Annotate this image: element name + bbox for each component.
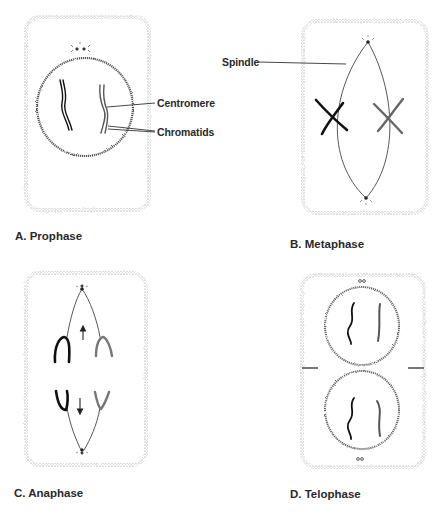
chromatin-light	[377, 304, 380, 436]
chromosome-light	[100, 85, 108, 133]
cell-membrane	[26, 17, 149, 210]
cell-membrane	[26, 273, 146, 465]
nucleus-bottom	[325, 371, 399, 449]
arrow-up-icon	[81, 326, 86, 340]
panel-metaphase	[258, 21, 427, 213]
caption-prophase: A. Prophase	[15, 230, 82, 242]
arrow-down-icon	[78, 398, 83, 414]
spindle	[67, 289, 100, 450]
chromosome-light	[95, 337, 112, 409]
label-spindle: Spindle	[222, 56, 259, 68]
centrosome-icon	[360, 35, 374, 205]
mitosis-diagram	[0, 0, 444, 514]
caption-telophase: D. Telophase	[290, 488, 361, 500]
centrosome-icon	[76, 285, 88, 454]
spindle	[337, 42, 390, 198]
nucleus-top	[325, 287, 399, 365]
nucleus	[37, 58, 133, 156]
panel-prophase	[26, 17, 155, 210]
label-chromatids: Chromatids	[157, 126, 214, 138]
centrosome-icon	[71, 42, 90, 52]
chromatin-dark	[348, 303, 354, 439]
chromosome-dark	[316, 100, 347, 134]
cell-membrane	[302, 275, 424, 467]
chromosome-dark	[60, 80, 72, 130]
chromosome-dark	[55, 337, 69, 410]
caption-anaphase: C. Anaphase	[14, 487, 83, 499]
caption-metaphase: B. Metaphase	[290, 238, 364, 250]
panel-anaphase	[26, 273, 146, 465]
label-centromere: Centromere	[157, 97, 215, 109]
panel-telophase	[302, 275, 424, 467]
cell-membrane	[303, 21, 427, 213]
centrosome-icon	[357, 280, 366, 461]
